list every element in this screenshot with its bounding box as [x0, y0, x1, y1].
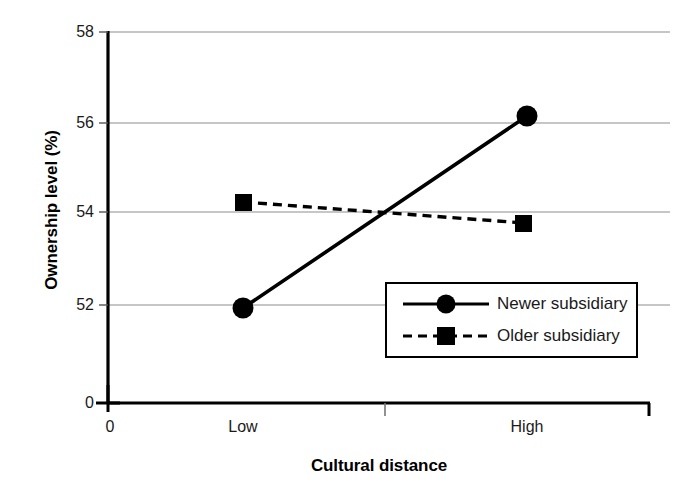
- newer-subsidiary-point-low: [233, 298, 254, 319]
- line-chart: Ownership level (%) 58 56 54 52 0 0 Low …: [0, 0, 696, 494]
- legend: Newer subsidiary Older subsidiary: [385, 282, 638, 358]
- older-subsidiary-point-high: [515, 215, 532, 232]
- legend-label-newer-subsidiary: Newer subsidiary: [497, 294, 627, 314]
- solid-line-circle-marker-icon: [401, 292, 491, 316]
- gridlines: [108, 32, 670, 305]
- plot-area: [0, 0, 696, 494]
- legend-entry-older-subsidiary: Older subsidiary: [387, 324, 636, 354]
- dashed-line-square-marker-icon: [401, 324, 491, 348]
- legend-entry-newer-subsidiary: Newer subsidiary: [387, 292, 636, 322]
- older-subsidiary-point-low: [235, 194, 252, 211]
- legend-label-older-subsidiary: Older subsidiary: [497, 326, 620, 346]
- x-axis-ticks: [108, 385, 649, 416]
- newer-subsidiary-point-high: [517, 106, 538, 127]
